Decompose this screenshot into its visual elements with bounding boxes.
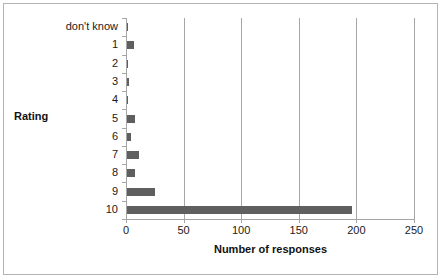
- y-axis-tick-label: 8: [112, 167, 118, 178]
- y-axis-tick: [122, 146, 126, 147]
- bar-chart-figure: Rating don't know12345678910 Number of r…: [0, 0, 445, 280]
- x-axis-tick: [241, 219, 242, 223]
- x-axis-tick-label: 100: [221, 224, 261, 236]
- bar: [126, 169, 135, 177]
- y-axis-tick: [122, 219, 126, 220]
- y-axis-line: [126, 18, 127, 220]
- y-axis-tick-label: 9: [112, 186, 118, 197]
- gridline-vertical: [299, 18, 300, 219]
- x-axis-tick-label: 50: [164, 224, 204, 236]
- gridline-vertical: [414, 18, 415, 219]
- gridline-vertical: [241, 18, 242, 219]
- bar: [126, 41, 134, 49]
- plot-area: [126, 18, 414, 219]
- x-axis-tick: [184, 219, 185, 223]
- x-axis-tick: [356, 219, 357, 223]
- y-axis-tick: [122, 128, 126, 129]
- x-axis-tick-label: 0: [106, 224, 146, 236]
- y-axis-tick-label: 5: [112, 113, 118, 124]
- bar: [126, 206, 352, 214]
- y-axis-tick: [122, 36, 126, 37]
- y-axis-tick: [122, 164, 126, 165]
- y-axis-tick-labels: don't know12345678910: [0, 0, 118, 280]
- x-axis-line: [126, 219, 415, 220]
- y-axis-tick-label: 2: [112, 58, 118, 69]
- y-axis-tick: [122, 91, 126, 92]
- bar: [126, 115, 135, 123]
- x-axis-tick-label: 200: [336, 224, 376, 236]
- gridline-vertical: [184, 18, 185, 219]
- y-axis-tick: [122, 109, 126, 110]
- y-axis-tick: [122, 18, 126, 19]
- bar: [126, 151, 139, 159]
- x-axis-tick: [126, 219, 127, 223]
- y-axis-tick-label: 10: [106, 204, 118, 215]
- y-axis-tick: [122, 73, 126, 74]
- x-axis-tick: [299, 219, 300, 223]
- y-axis-tick: [122, 201, 126, 202]
- y-axis-tick-label: 6: [112, 131, 118, 142]
- y-axis-tick-label: 1: [112, 39, 118, 50]
- y-axis-tick: [122, 55, 126, 56]
- y-axis-tick: [122, 182, 126, 183]
- y-axis-tick-label: don't know: [66, 21, 118, 32]
- y-axis-tick-label: 7: [112, 149, 118, 160]
- gridline-vertical: [356, 18, 357, 219]
- x-axis-tick-label: 150: [279, 224, 319, 236]
- y-axis-tick-label: 3: [112, 76, 118, 87]
- x-axis-tick-label: 250: [394, 224, 434, 236]
- bar: [126, 188, 155, 196]
- x-axis-title: Number of responses: [126, 243, 415, 255]
- y-axis-tick-label: 4: [112, 94, 118, 105]
- x-axis-tick: [414, 219, 415, 223]
